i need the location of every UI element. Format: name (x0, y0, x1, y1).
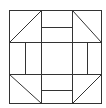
corner-triangle-top-left (10, 11, 42, 43)
corner-triangle-bottom-right (73, 75, 102, 104)
churn-dash-quilt-diagram (0, 0, 106, 108)
corner-triangle-bottom-left (10, 75, 42, 104)
corner-triangle-top-right (73, 11, 102, 43)
